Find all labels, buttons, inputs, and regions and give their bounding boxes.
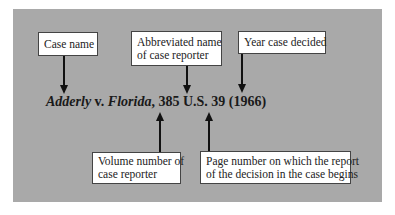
label-volume-line2: case reporter [98, 168, 175, 181]
diagram-stage: Case name Abbreviated name of case repor… [0, 0, 395, 215]
label-reporter-name: Abbreviated name of case reporter [131, 31, 222, 66]
citation-party1: Adderly [46, 94, 91, 109]
label-page-line1: Page number on which the report [206, 155, 345, 168]
citation-party2: Florida [108, 94, 152, 109]
arrow-down-icon [238, 84, 246, 93]
label-reporter-line2: of case reporter [137, 49, 216, 62]
arrow-page-shaft [208, 120, 210, 151]
citation-reporter: U.S. [179, 94, 211, 109]
label-case-name: Case name [38, 32, 98, 56]
case-citation: Adderly v. Florida, 385 U.S. 39 (1966) [46, 94, 266, 110]
citation-versus: v. [91, 94, 108, 109]
label-year: Year case decided [238, 31, 326, 54]
citation-volume: 385 [158, 94, 179, 109]
arrow-year-shaft [241, 54, 243, 85]
arrow-volume-shaft [159, 120, 161, 152]
label-case-name-text: Case name [44, 38, 92, 51]
label-year-text: Year case decided [244, 36, 320, 49]
label-reporter-line1: Abbreviated name [137, 36, 216, 49]
label-page-line2: of the decision in the case begins [206, 168, 345, 181]
arrow-case-name-shaft [63, 56, 65, 86]
arrow-reporter-shaft [186, 66, 188, 86]
arrow-down-icon [183, 85, 191, 94]
citation-year: (1966) [225, 94, 266, 109]
label-volume: Volume number of case reporter [92, 152, 181, 184]
label-volume-line1: Volume number of [98, 155, 175, 168]
label-page: Page number on which the report of the d… [200, 151, 351, 184]
citation-page: 39 [211, 94, 225, 109]
arrow-down-icon [60, 85, 68, 94]
